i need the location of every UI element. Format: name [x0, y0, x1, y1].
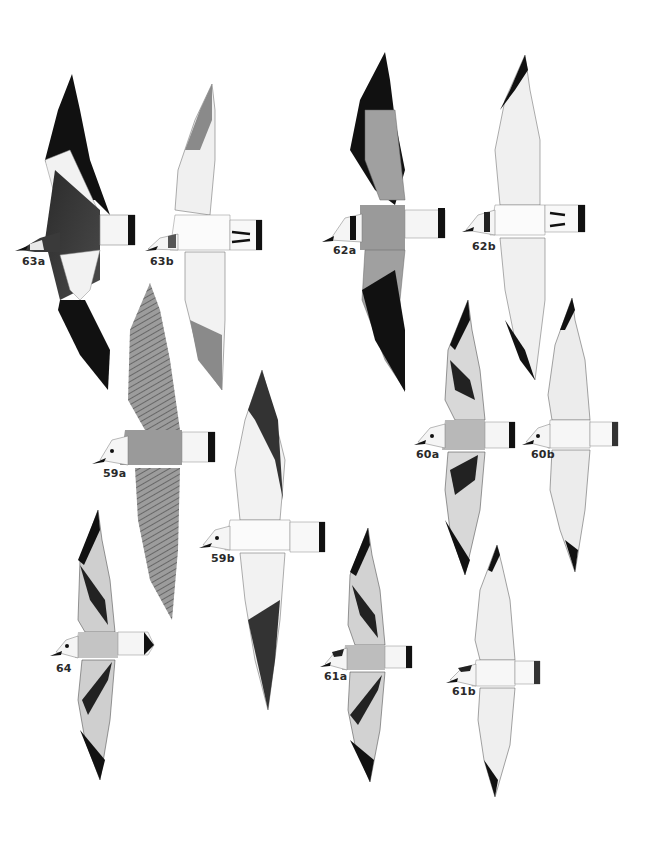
bird-63a — [15, 74, 135, 390]
figure-label-62a: 62a — [333, 244, 356, 257]
figure-label-59b: 59b — [211, 552, 235, 565]
bird-64 — [50, 510, 154, 780]
bird-61b — [446, 545, 540, 797]
birds-illustration — [0, 0, 646, 846]
figure-label-63a: 63a — [22, 255, 45, 268]
figure-label-61b: 61b — [452, 685, 476, 698]
figure-label-60a: 60a — [416, 448, 439, 461]
figure-label-60b: 60b — [531, 448, 555, 461]
bird-61a — [320, 528, 412, 782]
bird-62a — [322, 52, 445, 392]
figure-label-64: 64 — [56, 662, 72, 675]
figure-label-61a: 61a — [324, 670, 347, 683]
figure-label-63b: 63b — [150, 255, 174, 268]
bird-59b — [199, 370, 325, 710]
illustration-plate: 63a 63b 62a 62b 59a 59b 60a 60b 64 61a 6… — [0, 0, 646, 846]
figure-label-59a: 59a — [103, 467, 126, 480]
figure-label-62b: 62b — [472, 240, 496, 253]
bird-60a — [414, 300, 515, 575]
